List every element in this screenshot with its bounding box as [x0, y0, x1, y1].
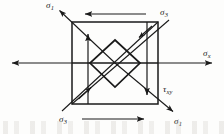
label-sigma3-top-right: σ3	[160, 8, 168, 17]
tau-xy-subscript: xy	[167, 88, 173, 95]
sigma3-top-right-subscript: 3	[165, 11, 168, 18]
sigma3-top-right-symbol: σ	[160, 7, 164, 17]
sigma3-bottom-left-subscript: 3	[64, 118, 67, 125]
label-sigma1-bottom-right: σ1	[174, 117, 182, 126]
label-sigma1-top-left: σ1	[46, 1, 54, 10]
sigma1-arrow-upper-left	[60, 11, 116, 64]
sigma-x-symbol: σ	[203, 48, 207, 58]
label-tau-xy-right: τxy	[163, 85, 172, 94]
sigma1-top-left-symbol: σ	[46, 0, 50, 10]
sigma-x-subscript: x	[208, 52, 211, 59]
sigma3-bottom-left-symbol: σ	[59, 114, 63, 124]
sigma1-top-left-subscript: 1	[51, 4, 54, 11]
principal-axis-sigma3	[62, 20, 169, 111]
sigma1-bottom-right-symbol: σ	[174, 116, 178, 126]
stress-diagram-canvas	[0, 0, 224, 134]
sigma1-diagonal-line	[62, 22, 158, 111]
label-sigma-x-right: σx	[203, 49, 210, 58]
tau-xy-symbol: τ	[163, 84, 166, 94]
stress-element-figure: σ1 σ3 σx τxy σ3 σ1	[0, 0, 224, 134]
label-sigma3-bottom-left: σ3	[59, 115, 67, 124]
sigma1-bottom-right-subscript: 1	[179, 120, 182, 127]
